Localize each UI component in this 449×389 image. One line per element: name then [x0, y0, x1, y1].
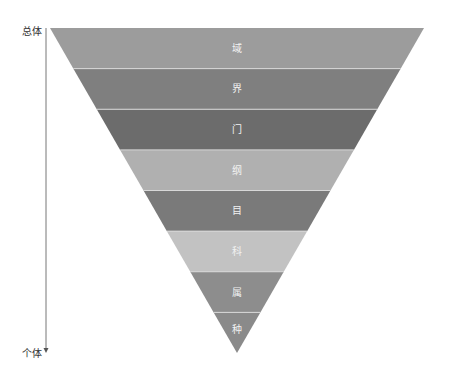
- pyramid-level: 科: [167, 231, 307, 272]
- pyramid-level: 域: [50, 28, 424, 69]
- arrow-down-icon: [44, 348, 49, 353]
- vertical-axis: [44, 28, 49, 353]
- pyramid-level: 属: [190, 272, 284, 313]
- pyramid-level: 纲: [120, 150, 354, 191]
- pyramid-level-label: 界: [232, 83, 242, 94]
- pyramid-level-label: 纲: [232, 164, 242, 176]
- pyramid-level-label: 域: [232, 42, 242, 54]
- pyramid-levels: 域界门纲目科属种: [50, 28, 424, 353]
- pyramid-level: 界: [73, 69, 400, 110]
- taxonomy-pyramid: 域界门纲目科属种: [0, 0, 449, 389]
- pyramid-level-label: 门: [232, 123, 242, 135]
- pyramid-level: 门: [97, 109, 378, 150]
- pyramid-level-label: 属: [232, 287, 242, 298]
- pyramid-level: 目: [144, 191, 331, 232]
- pyramid-level-label: 目: [232, 205, 242, 216]
- pyramid-level-label: 科: [232, 245, 242, 257]
- pyramid-level-label: 种: [232, 323, 242, 335]
- pyramid-level: 种: [214, 312, 261, 353]
